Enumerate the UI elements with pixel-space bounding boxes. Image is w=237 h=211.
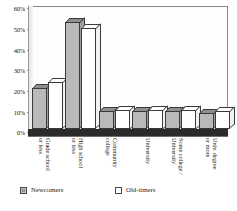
legend-label: Newcomers [31, 186, 63, 194]
bar-face [215, 111, 230, 129]
bar-face [32, 88, 47, 129]
bar-face [199, 113, 214, 129]
bar-group [61, 6, 94, 136]
bar-old-timers [215, 111, 230, 129]
chart-floor-edge [28, 136, 228, 137]
bar-newcomers [32, 88, 47, 129]
legend-item-oldtimers: Old-timers [115, 186, 155, 194]
chart-floor [28, 129, 228, 136]
bar-newcomers [199, 113, 214, 129]
bar-newcomers [65, 22, 80, 129]
bar-face [165, 111, 180, 129]
y-tick-label: 20% [14, 88, 25, 95]
bar-group [28, 6, 61, 136]
bar-group [161, 6, 194, 136]
y-tick-label: 0% [17, 129, 25, 136]
y-tick-label: 10% [14, 109, 25, 116]
legend-label: Old-timers [126, 186, 155, 194]
bar-group [195, 6, 228, 136]
y-tick-label: 50% [14, 26, 25, 33]
bars-layer [28, 6, 228, 136]
chart-legend: Newcomers Old-timers [20, 186, 220, 198]
bar-newcomers [99, 111, 114, 129]
legend-swatch-empty-icon [115, 187, 122, 194]
y-tick-label: 60% [14, 5, 25, 12]
y-tick-label: 40% [14, 47, 25, 54]
bar-newcomers [132, 111, 147, 129]
y-axis: 60% 50% 40% 30% 20% 10% 0% [0, 0, 28, 142]
y-tick-label: 30% [14, 67, 25, 74]
bar-group [95, 6, 128, 136]
bar-newcomers [165, 111, 180, 129]
bar-group [128, 6, 161, 136]
legend-swatch-filled-icon [20, 187, 27, 194]
bar-face [65, 22, 80, 129]
bar-chart: 60% 50% 40% 30% 20% 10% 0% Grade schoolo… [0, 0, 237, 211]
bar-face [99, 111, 114, 129]
legend-item-newcomers: Newcomers [20, 186, 63, 194]
bar-face [132, 111, 147, 129]
figure-caption [8, 204, 233, 211]
